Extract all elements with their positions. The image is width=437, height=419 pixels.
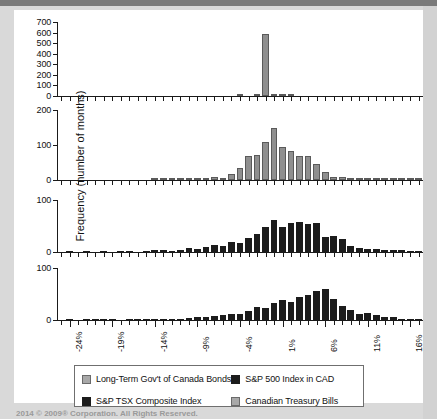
x-axis-tick bbox=[359, 253, 360, 257]
histogram-bar bbox=[305, 156, 312, 180]
x-axis-major-tick bbox=[240, 321, 241, 327]
histogram-bar bbox=[83, 251, 90, 252]
x-axis-tick bbox=[87, 321, 88, 325]
x-axis-tick bbox=[385, 97, 386, 101]
histogram-bar bbox=[288, 94, 295, 96]
y-axis-tick-label: 700 bbox=[37, 17, 51, 27]
histogram-bar bbox=[254, 94, 261, 96]
histogram-bar bbox=[279, 227, 286, 252]
x-axis-tick bbox=[300, 181, 301, 185]
x-axis-tick bbox=[189, 97, 190, 101]
x-axis-tick bbox=[385, 253, 386, 257]
histogram-bar bbox=[339, 306, 346, 320]
y-axis-tick bbox=[53, 268, 57, 269]
histogram-bar bbox=[271, 94, 278, 96]
x-axis-tick bbox=[342, 253, 343, 257]
legend-row: Long-Term Gov't of Canada Bonds S&P 500 … bbox=[82, 371, 356, 387]
histogram-bar bbox=[415, 319, 422, 320]
histogram-bar bbox=[390, 317, 397, 320]
histogram-bar bbox=[262, 308, 269, 320]
x-axis-tick bbox=[104, 321, 105, 325]
histogram-bar bbox=[296, 156, 303, 180]
histogram-bar bbox=[339, 239, 346, 252]
x-axis-tick bbox=[172, 321, 173, 325]
x-axis-tick bbox=[376, 97, 377, 101]
x-axis-tick bbox=[112, 253, 113, 257]
x-axis-tick bbox=[368, 97, 369, 101]
x-axis-tick bbox=[240, 253, 241, 257]
x-axis-tick bbox=[300, 97, 301, 101]
x-axis-tick bbox=[419, 181, 420, 185]
x-axis-tick bbox=[274, 97, 275, 101]
histogram-bar bbox=[356, 314, 363, 320]
x-axis-major-tick bbox=[155, 321, 156, 327]
y-axis-tick bbox=[53, 180, 57, 181]
histogram-bar bbox=[305, 295, 312, 320]
x-axis-tick bbox=[104, 181, 105, 185]
x-axis-tick bbox=[138, 321, 139, 325]
histogram-bar bbox=[381, 178, 388, 180]
histogram-bar bbox=[390, 178, 397, 180]
x-axis-major-tick bbox=[197, 321, 198, 327]
histogram-bar bbox=[313, 223, 320, 252]
y-axis-tick bbox=[53, 54, 57, 55]
x-axis-major-tick bbox=[112, 321, 113, 327]
histogram-bar bbox=[364, 249, 371, 252]
x-axis-tick bbox=[257, 181, 258, 185]
histogram-bar bbox=[237, 314, 244, 320]
histogram-bar bbox=[271, 128, 278, 181]
y-axis-tick bbox=[53, 200, 57, 201]
y-axis-tick-label: 200 bbox=[37, 70, 51, 80]
x-axis-tick bbox=[249, 181, 250, 185]
x-axis-tick bbox=[351, 97, 352, 101]
y-axis-tick-label: 300 bbox=[37, 59, 51, 69]
histogram-bar bbox=[83, 319, 90, 320]
histogram-bar bbox=[220, 246, 227, 252]
histogram-bar bbox=[203, 247, 210, 252]
x-axis-tick-label: -19% bbox=[116, 332, 126, 352]
legend-row: S&P TSX Composite Index Canadian Treasur… bbox=[82, 393, 356, 409]
x-axis-tick bbox=[180, 253, 181, 257]
histogram-bar bbox=[237, 243, 244, 252]
histogram-bar bbox=[194, 249, 201, 252]
histogram-bar bbox=[100, 251, 107, 252]
x-axis-tick bbox=[231, 321, 232, 325]
histogram-bar bbox=[151, 319, 158, 320]
histogram-bar bbox=[415, 178, 422, 180]
x-axis-tick bbox=[240, 97, 241, 101]
x-axis-tick bbox=[308, 253, 309, 257]
histogram-bar bbox=[228, 314, 235, 320]
y-axis-tick-label: 100 bbox=[37, 80, 51, 90]
x-axis-tick bbox=[283, 253, 284, 257]
x-axis-tick bbox=[70, 181, 71, 185]
x-axis-tick bbox=[402, 321, 403, 325]
histogram-bar bbox=[194, 317, 201, 320]
x-axis-tick bbox=[61, 321, 62, 325]
histogram-panel-sp500: 0100 bbox=[14, 268, 423, 336]
x-axis-tick bbox=[138, 97, 139, 101]
histogram-bar bbox=[322, 237, 329, 252]
x-axis-tick bbox=[95, 321, 96, 325]
histogram-bar bbox=[186, 318, 193, 320]
histogram-bar bbox=[109, 319, 116, 320]
x-axis-tick bbox=[87, 181, 88, 185]
x-axis-tick bbox=[393, 253, 394, 257]
legend-swatch-icon bbox=[231, 375, 240, 384]
x-axis-tick bbox=[334, 181, 335, 185]
x-axis-tick bbox=[121, 321, 122, 325]
y-axis-tick bbox=[53, 320, 57, 321]
histogram-bar bbox=[143, 251, 150, 252]
histogram-bar bbox=[211, 316, 218, 320]
histogram-bar bbox=[186, 178, 193, 180]
x-axis-tick bbox=[419, 321, 420, 325]
histogram-bar bbox=[339, 177, 346, 180]
x-axis-tick bbox=[61, 97, 62, 101]
y-axis-tick-label: 0 bbox=[46, 91, 51, 101]
y-axis-tick-label: 100 bbox=[37, 140, 51, 150]
histogram-bar bbox=[373, 178, 380, 180]
x-axis-tick bbox=[197, 181, 198, 185]
x-axis-tick bbox=[317, 97, 318, 101]
histogram-bar bbox=[228, 242, 235, 252]
y-axis-tick bbox=[53, 110, 57, 111]
x-axis-tick bbox=[385, 321, 386, 325]
